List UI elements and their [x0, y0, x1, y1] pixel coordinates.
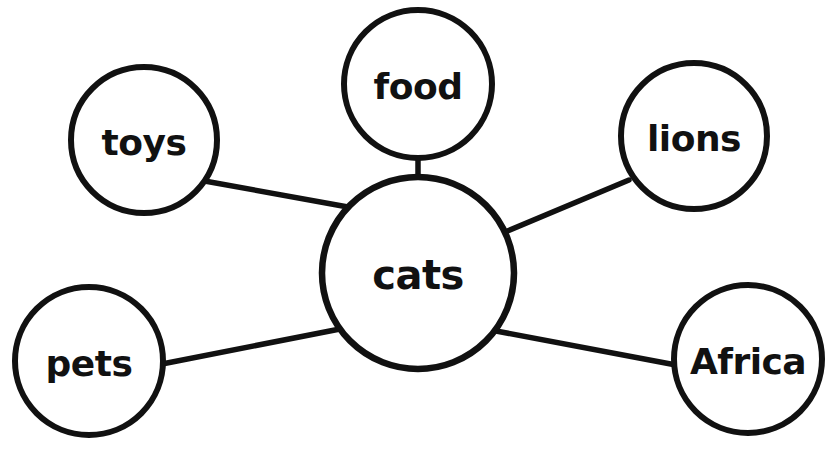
word-web-canvas: toysfoodlionspetsAfricacats — [0, 0, 835, 450]
node-label-cats: cats — [372, 252, 464, 298]
node-label-africa: Africa — [690, 341, 806, 382]
node-label-food: food — [374, 66, 463, 107]
node-label-pets: pets — [46, 343, 133, 384]
node-lions[interactable]: lions — [621, 63, 767, 209]
node-label-toys: toys — [102, 122, 187, 163]
node-pets[interactable]: pets — [15, 287, 163, 435]
word-web-diagram: toysfoodlionspetsAfricacats — [0, 0, 835, 450]
node-toys[interactable]: toys — [71, 67, 217, 213]
node-cats[interactable]: cats — [322, 177, 514, 369]
node-food[interactable]: food — [344, 10, 492, 158]
node-africa[interactable]: Africa — [674, 285, 822, 433]
node-label-lions: lions — [647, 118, 741, 159]
